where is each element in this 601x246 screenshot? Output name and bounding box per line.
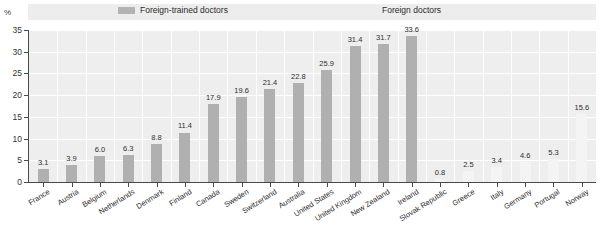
bar-value-label: 6.0 [87, 146, 113, 154]
x-axis-category-label: Germany [503, 188, 533, 211]
bar-value-label: 4.6 [512, 152, 538, 160]
bar-value-label: 31.7 [370, 34, 396, 42]
bar-new-zealand [378, 44, 389, 182]
legend-band [28, 4, 596, 20]
x-axis-tick [553, 183, 554, 187]
y-axis-tick [24, 139, 29, 140]
bar-sweden [236, 97, 247, 182]
bar-value-label: 2.5 [455, 161, 481, 169]
gridline-vertical [114, 30, 115, 182]
bar-denmark [151, 144, 162, 182]
gridline-vertical [227, 30, 228, 182]
legend-label-foreign-doctors: Foreign doctors [382, 5, 441, 15]
bar-value-label: 31.4 [342, 36, 368, 44]
x-axis-tick [298, 183, 299, 187]
bar-value-label: 0.8 [427, 169, 453, 177]
gridline-vertical [142, 30, 143, 182]
x-axis-category-label: Finland [168, 188, 193, 208]
y-axis-tick [24, 182, 29, 183]
bar-greece [463, 171, 474, 182]
y-axis-tick [24, 117, 29, 118]
legend-label-foreign-trained-doctors: Foreign-trained doctors [140, 5, 228, 15]
bar-value-label: 22.8 [285, 73, 311, 81]
x-axis-tick [242, 183, 243, 187]
bar-value-label: 25.9 [314, 60, 340, 68]
x-axis-category-label: Austria [56, 188, 80, 207]
bar-value-label: 33.6 [399, 26, 425, 34]
bar-value-label: 3.1 [30, 159, 56, 167]
x-axis-category-label: Portugal [534, 188, 562, 210]
y-axis-tick-label: 20 [0, 91, 22, 99]
y-axis-tick [24, 73, 29, 74]
gridline-vertical [199, 30, 200, 182]
x-axis-tick [468, 183, 469, 187]
y-axis-tick [24, 95, 29, 96]
gridline-vertical [454, 30, 455, 182]
x-axis-tick [412, 183, 413, 187]
bar-netherlands [123, 155, 134, 182]
bar-value-label: 21.4 [257, 79, 283, 87]
y-axis-tick [24, 52, 29, 53]
x-axis-category-label: Norway [564, 188, 590, 208]
plot-area [29, 30, 596, 182]
gridline-vertical [284, 30, 285, 182]
x-axis-tick [355, 183, 356, 187]
x-axis-tick [43, 183, 44, 187]
bar-austria [66, 165, 77, 182]
x-axis-category-label: France [27, 188, 51, 207]
x-axis-category-label: Denmark [135, 188, 165, 211]
y-axis-tick-label: 25 [0, 69, 22, 77]
x-axis-tick [497, 183, 498, 187]
chart-container: Foreign-trained doctors Foreign doctors … [0, 0, 601, 246]
x-axis-category-label: Italy [489, 188, 505, 202]
y-axis-tick-label: 10 [0, 135, 22, 143]
gridline-vertical [539, 30, 540, 182]
x-axis-tick [270, 183, 271, 187]
y-axis-tick [24, 160, 29, 161]
x-axis-tick [72, 183, 73, 187]
x-axis-tick [525, 183, 526, 187]
gridline-vertical [341, 30, 342, 182]
bar-belgium [94, 156, 105, 182]
bar-norway [576, 114, 587, 182]
gridline-vertical [171, 30, 172, 182]
x-axis-category-label: Greece [452, 188, 477, 208]
legend-entry-foreign-trained-doctors: Foreign-trained doctors [118, 4, 228, 16]
bar-finland [179, 133, 190, 183]
x-axis-tick [213, 183, 214, 187]
bar-value-label: 8.8 [144, 134, 170, 142]
bar-germany [520, 162, 531, 182]
bar-value-label: 15.6 [569, 104, 595, 112]
x-axis-tick [440, 183, 441, 187]
y-axis-tick-label: 35 [0, 26, 22, 34]
gridline-vertical [398, 30, 399, 182]
bar-value-label: 3.4 [484, 157, 510, 165]
x-axis-tick [327, 183, 328, 187]
bar-switzerland [264, 89, 275, 182]
x-axis-tick [100, 183, 101, 187]
bar-portugal [548, 159, 559, 182]
bar-value-label: 6.3 [115, 145, 141, 153]
bar-ireland [406, 36, 417, 182]
y-axis-unit-label: % [4, 8, 11, 17]
y-axis-tick-label: 0 [0, 178, 22, 186]
y-axis-tick-label: 5 [0, 156, 22, 164]
gridline-vertical [426, 30, 427, 182]
x-axis-line [28, 182, 596, 183]
y-axis-tick-label: 15 [0, 113, 22, 121]
y-axis-tick-label: 30 [0, 48, 22, 56]
bar-united-states [321, 70, 332, 182]
gridline-vertical [256, 30, 257, 182]
bar-australia [293, 83, 304, 182]
x-axis-category-label: Canada [195, 188, 222, 209]
bar-value-label: 11.4 [172, 122, 198, 130]
legend-swatch-icon [118, 7, 135, 14]
x-axis-tick [582, 183, 583, 187]
bar-canada [208, 104, 219, 182]
bar-france [38, 169, 49, 182]
gridline-vertical [313, 30, 314, 182]
x-axis-tick [157, 183, 158, 187]
gridline-vertical [86, 30, 87, 182]
x-axis-tick [185, 183, 186, 187]
bar-value-label: 5.3 [540, 149, 566, 157]
